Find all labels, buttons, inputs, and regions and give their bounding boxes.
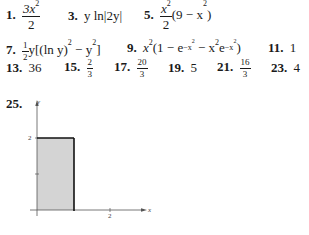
region-graph	[0, 0, 309, 235]
shaded-region	[37, 138, 74, 210]
y-axis-label: y	[37, 99, 40, 106]
x-axis-label: x	[148, 207, 151, 214]
x-tick-label: 2	[108, 213, 112, 220]
y-tick-label: 2	[28, 135, 32, 142]
x-axis-arrow-icon	[141, 208, 147, 211]
